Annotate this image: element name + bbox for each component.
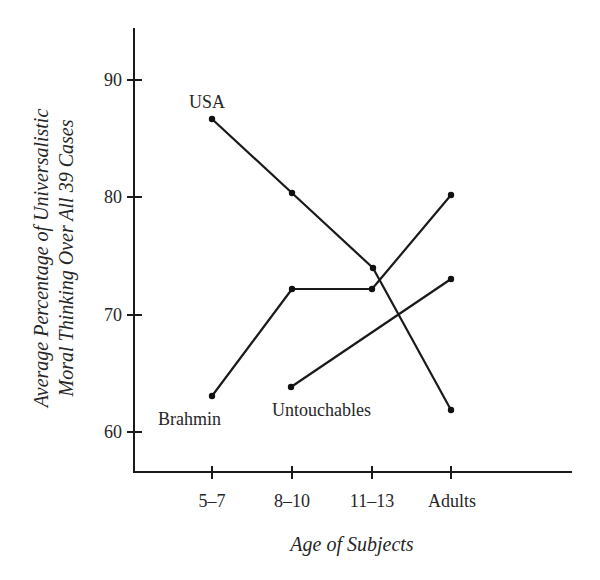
brahmin-point-5-7 xyxy=(209,393,215,399)
y-axis-title: Average Percentage of Universalistic Mor… xyxy=(30,109,78,410)
line-chart: 90 80 70 60 5–7 8–10 11–13 Adults Age of… xyxy=(0,0,600,580)
y-axis-title-line2: Moral Thinking Over All 39 Cases xyxy=(55,119,78,397)
usa-point-8-10 xyxy=(289,190,295,196)
brahmin-point-8-10 xyxy=(289,286,295,292)
chart-canvas: 90 80 70 60 5–7 8–10 11–13 Adults Age of… xyxy=(0,0,600,580)
brahmin-line xyxy=(212,195,451,396)
untouchables-line xyxy=(291,279,451,387)
series-untouchables: Untouchables xyxy=(272,276,454,420)
x-axis-title: Age of Subjects xyxy=(288,533,414,556)
y-tick-label-60: 60 xyxy=(104,422,122,442)
y-tick-label-90: 90 xyxy=(104,70,122,90)
usa-label: USA xyxy=(189,92,225,112)
usa-line xyxy=(212,119,451,410)
x-tick-label-5-7: 5–7 xyxy=(199,491,226,511)
usa-point-5-7 xyxy=(209,116,215,122)
x-tick-label-adults: Adults xyxy=(428,491,476,511)
brahmin-label: Brahmin xyxy=(158,409,221,429)
y-tick-label-70: 70 xyxy=(104,305,122,325)
x-tick-label-8-10: 8–10 xyxy=(274,491,310,511)
untouchables-point-8-10 xyxy=(288,384,294,390)
untouchables-label: Untouchables xyxy=(272,400,371,420)
series-brahmin: Brahmin xyxy=(158,192,454,429)
brahmin-point-11-13 xyxy=(369,286,375,292)
y-ticks: 90 80 70 60 xyxy=(104,70,142,442)
y-axis-title-line1: Average Percentage of Universalistic xyxy=(30,109,53,410)
brahmin-point-adults xyxy=(448,192,454,198)
usa-point-adults xyxy=(448,407,454,413)
y-tick-label-80: 80 xyxy=(104,187,122,207)
usa-point-11-13 xyxy=(370,265,376,271)
x-tick-label-11-13: 11–13 xyxy=(350,491,394,511)
untouchables-point-adults xyxy=(448,276,454,282)
